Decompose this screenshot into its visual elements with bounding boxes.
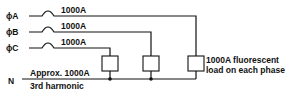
phase-b-label: ϕB: [6, 27, 19, 37]
circuit-diagram: ϕA ϕB ϕC N 1000A 1000A 1000A Approx. 100…: [0, 0, 286, 94]
junction-dot: [108, 77, 112, 81]
junction-dot: [149, 77, 153, 81]
phase-c-current: 1000A: [61, 37, 86, 47]
neutral-harmonic-note: 3rd harmonic: [30, 81, 84, 91]
neutral-label: N: [8, 76, 14, 86]
phase-b-current: 1000A: [61, 21, 86, 31]
load-box-c: [102, 56, 118, 71]
phase-c-label: ϕC: [6, 43, 19, 53]
phase-a-wire: [29, 11, 196, 56]
neutral-current: Approx. 1000A: [30, 68, 90, 78]
phase-a-current: 1000A: [61, 5, 86, 15]
load-box-b: [143, 56, 159, 71]
phase-b-wire: [29, 27, 151, 56]
phase-a-label: ϕA: [6, 11, 19, 21]
load-note-line2: load on each phase: [206, 65, 285, 75]
load-box-a: [188, 56, 204, 71]
load-note-line1: 1000A fluorescent: [206, 55, 279, 65]
